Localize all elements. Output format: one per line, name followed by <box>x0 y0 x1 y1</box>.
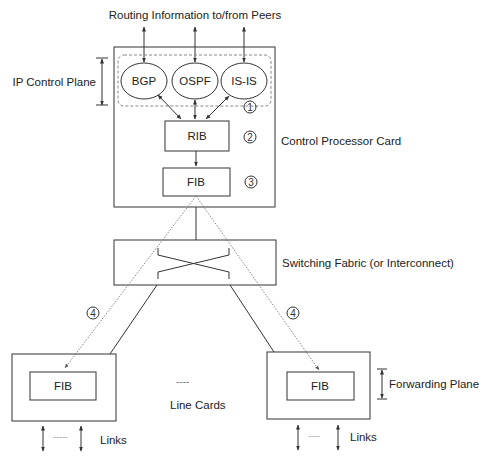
left-fib-label: FIB <box>54 380 72 392</box>
ospf-label: OSPF <box>179 75 210 87</box>
bgp-label: BGP <box>132 75 157 87</box>
fib-download-right-arrow <box>196 196 319 370</box>
step-1-number: 1 <box>247 102 253 113</box>
ip-control-plane-label: IP Control Plane <box>12 76 96 88</box>
right-links-label: Links <box>350 431 377 443</box>
left-links-label: Links <box>100 434 127 446</box>
step-3-number: 3 <box>248 177 254 188</box>
routing-info-title: Routing Information to/from Peers <box>109 9 282 21</box>
line-cards-label: Line Cards <box>170 399 226 411</box>
router-architecture-diagram: Routing Information to/from Peers Contro… <box>0 0 484 462</box>
bgp-rib-arrow <box>158 95 181 119</box>
fib-download-left-arrow <box>65 196 196 368</box>
step-4-left-number: 4 <box>90 308 96 319</box>
isis-rib-arrow <box>206 96 229 119</box>
fabric-right-link <box>230 285 274 352</box>
fabric-left-link <box>110 285 157 354</box>
line-cards-ellipsis: ---- <box>176 376 189 387</box>
step-2-number: 2 <box>247 132 253 143</box>
switching-fabric-box <box>114 240 276 285</box>
cp-fib-label: FIB <box>187 176 205 188</box>
fabric-cross-b <box>158 248 229 279</box>
isis-label: IS-IS <box>231 75 257 87</box>
forwarding-plane-label: Forwarding Plane <box>389 378 479 390</box>
left-links-ellipsis: ----- <box>53 432 68 442</box>
rib-label: RIB <box>187 130 207 142</box>
right-links-ellipsis: ---- <box>308 431 320 441</box>
step-4-right-number: 4 <box>290 308 296 319</box>
right-fib-label: FIB <box>311 380 329 392</box>
switching-fabric-label: Switching Fabric (or Interconnect) <box>282 257 454 269</box>
control-processor-label: Control Processor Card <box>281 135 401 147</box>
